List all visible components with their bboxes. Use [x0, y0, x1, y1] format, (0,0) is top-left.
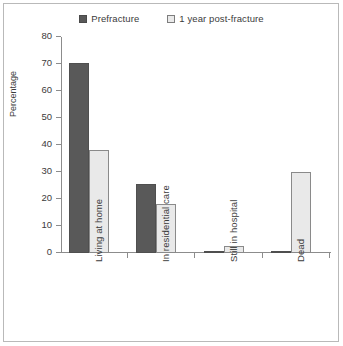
x-axis-tick — [127, 253, 128, 258]
legend-swatch-post-fracture-icon — [167, 15, 175, 23]
x-axis-category-label: Still in hospital — [228, 200, 239, 262]
y-axis-tick-label: 50 — [41, 111, 52, 122]
legend-item-prefracture: Prefracture — [79, 13, 139, 24]
y-axis-tick-label: 80 — [41, 30, 52, 41]
y-axis-line — [61, 37, 62, 253]
bar-prefracture — [271, 251, 291, 253]
y-axis-tick-label: 70 — [41, 57, 52, 68]
x-axis-tick — [329, 253, 330, 258]
x-axis-tick — [262, 253, 263, 258]
y-axis-tick: 40 — [56, 144, 61, 145]
chart-legend: Prefracture 1 year post-fracture — [0, 13, 343, 24]
legend-item-post-fracture: 1 year post-fracture — [167, 13, 263, 24]
bar-prefracture — [204, 251, 224, 253]
chart-figure: Prefracture 1 year post-fracture Percent… — [0, 0, 343, 346]
y-axis-tick: 20 — [56, 198, 61, 199]
y-axis-tick: 50 — [56, 117, 61, 118]
y-axis-tick: 70 — [56, 63, 61, 64]
y-axis-tick: 60 — [56, 90, 61, 91]
y-axis-tick-label: 60 — [41, 84, 52, 95]
y-axis-tick-label: 20 — [41, 192, 52, 203]
y-axis-tick: 10 — [56, 225, 61, 226]
bar-prefracture — [69, 63, 89, 253]
legend-label-post-fracture: 1 year post-fracture — [179, 13, 263, 24]
y-axis-tick-label: 10 — [41, 219, 52, 230]
x-axis-category-label: Living at home — [93, 199, 104, 262]
y-axis-tick: 0 — [56, 252, 61, 253]
y-axis-title: Percentage — [8, 103, 18, 117]
y-axis-tick-label: 0 — [47, 246, 52, 257]
legend-label-prefracture: Prefracture — [91, 13, 139, 24]
y-axis-tick-label: 30 — [41, 165, 52, 176]
y-axis-tick-label: 40 — [41, 138, 52, 149]
legend-swatch-prefracture-icon — [79, 15, 87, 23]
x-axis-category-label: In residential care — [160, 185, 171, 262]
bar-prefracture — [136, 184, 156, 253]
x-axis-category-label: Dead — [295, 239, 306, 262]
plot-area: 01020304050607080 Living at homeIn resid… — [61, 37, 331, 253]
y-axis-tick: 30 — [56, 171, 61, 172]
y-axis-tick: 80 — [56, 36, 61, 37]
x-axis-tick — [194, 253, 195, 258]
